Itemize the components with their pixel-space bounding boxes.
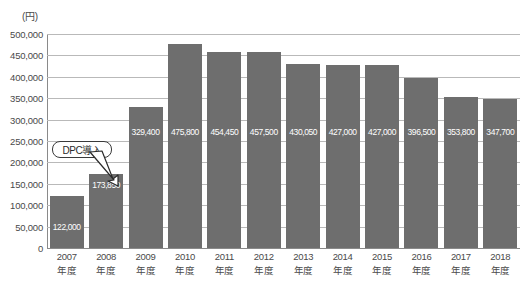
bar: 347,700	[483, 99, 517, 248]
dpc-introduction-callout: DPC導入	[52, 141, 112, 158]
x-tick-year: 2009	[126, 250, 165, 264]
bar: 475,800	[168, 44, 202, 248]
bar-value-label: 475,800	[168, 127, 202, 137]
bar-value-label: 353,800	[444, 127, 478, 137]
bar: 457,500	[247, 52, 281, 248]
x-tick-suffix: 年度	[86, 264, 125, 278]
x-tick-year: 2018	[481, 250, 520, 264]
y-axis-tick-labels: 500,000450,000400,000350,000300,000250,0…	[0, 34, 43, 248]
x-axis-tick-label: 2014年度	[323, 250, 362, 278]
x-tick-suffix: 年度	[165, 264, 204, 278]
x-axis-tick-label: 2017年度	[441, 250, 480, 278]
x-tick-suffix: 年度	[126, 264, 165, 278]
dpc-introduction-callout-label: DPC導入	[62, 142, 101, 157]
x-tick-year: 2012	[244, 250, 283, 264]
x-tick-year: 2011	[205, 250, 244, 264]
x-tick-year: 2015	[362, 250, 401, 264]
x-tick-year: 2014	[323, 250, 362, 264]
bar-value-label: 430,050	[286, 127, 320, 137]
bar-value-label: 454,450	[207, 127, 241, 137]
bar-value-label: 457,500	[247, 127, 281, 137]
x-tick-year: 2010	[165, 250, 204, 264]
x-axis-tick-label: 2012年度	[244, 250, 283, 278]
x-axis-tick-label: 2008年度	[86, 250, 125, 278]
gridline	[47, 55, 520, 56]
x-tick-suffix: 年度	[244, 264, 283, 278]
bar: 454,450	[207, 52, 241, 248]
x-tick-suffix: 年度	[441, 264, 480, 278]
y-axis-tick-label: 400,000	[10, 71, 43, 82]
x-axis-tick-label: 2016年度	[402, 250, 441, 278]
x-axis-tick-label: 2011年度	[205, 250, 244, 278]
bar: 396,500	[404, 78, 438, 248]
x-axis-tick-label: 2010年度	[165, 250, 204, 278]
y-axis-tick-label: 0	[38, 243, 43, 254]
gridline	[47, 77, 520, 78]
x-tick-suffix: 年度	[323, 264, 362, 278]
bar: 430,050	[286, 64, 320, 248]
x-tick-suffix: 年度	[402, 264, 441, 278]
bar-chart: (円) 500,000450,000400,000350,000300,0002…	[0, 0, 529, 286]
x-tick-year: 2008	[86, 250, 125, 264]
bar-value-label: 347,700	[483, 127, 517, 137]
bar-value-label: 173,850	[89, 180, 123, 190]
x-axis-tick-label: 2007年度	[47, 250, 86, 278]
x-tick-suffix: 年度	[205, 264, 244, 278]
y-axis-tick-label: 200,000	[10, 157, 43, 168]
bar-value-label: 122,000	[50, 222, 84, 232]
y-axis-unit-label: (円)	[22, 8, 38, 23]
bar: 329,400	[129, 107, 163, 248]
x-axis-tick-label: 2009年度	[126, 250, 165, 278]
gridline	[47, 248, 520, 249]
plot-area: 122,000173,850329,400475,800454,450457,5…	[47, 34, 520, 248]
y-axis-tick-label: 150,000	[10, 178, 43, 189]
x-axis-tick-label: 2018年度	[481, 250, 520, 278]
x-tick-suffix: 年度	[284, 264, 323, 278]
y-axis-tick-label: 250,000	[10, 136, 43, 147]
x-tick-suffix: 年度	[362, 264, 401, 278]
bar: 427,000	[326, 65, 360, 248]
y-axis-tick-label: 50,000	[15, 221, 43, 232]
bar-value-label: 427,000	[326, 127, 360, 137]
bar-value-label: 396,500	[404, 127, 438, 137]
x-tick-year: 2013	[284, 250, 323, 264]
bar: 427,000	[365, 65, 399, 248]
bar-value-label: 329,400	[129, 127, 163, 137]
x-tick-year: 2016	[402, 250, 441, 264]
x-tick-suffix: 年度	[481, 264, 520, 278]
bar: 353,800	[444, 97, 478, 248]
x-axis-tick-labels: 2007年度2008年度2009年度2010年度2011年度2012年度2013…	[47, 250, 520, 286]
x-axis-tick-label: 2015年度	[362, 250, 401, 278]
gridline	[47, 34, 520, 35]
x-axis-tick-label: 2013年度	[284, 250, 323, 278]
y-axis-tick-label: 500,000	[10, 29, 43, 40]
y-axis-tick-label: 100,000	[10, 200, 43, 211]
y-axis-tick-label: 350,000	[10, 93, 43, 104]
x-tick-year: 2017	[441, 250, 480, 264]
bar: 122,000	[50, 196, 84, 248]
bar-value-label: 427,000	[365, 127, 399, 137]
y-axis-tick-label: 450,000	[10, 50, 43, 61]
x-tick-year: 2007	[47, 250, 86, 264]
x-tick-suffix: 年度	[47, 264, 86, 278]
y-axis-tick-label: 300,000	[10, 114, 43, 125]
bar: 173,850	[89, 174, 123, 248]
